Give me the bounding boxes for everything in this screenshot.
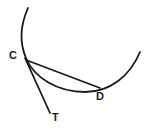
point-label-c: C (9, 50, 17, 61)
point-label-d: D (96, 91, 104, 102)
circle-arc (22, 8, 140, 92)
geometry-canvas (0, 0, 147, 130)
tangent-c-to-t (25, 58, 50, 113)
geometry-figure: C D T (0, 0, 147, 130)
point-label-t: T (52, 112, 59, 123)
